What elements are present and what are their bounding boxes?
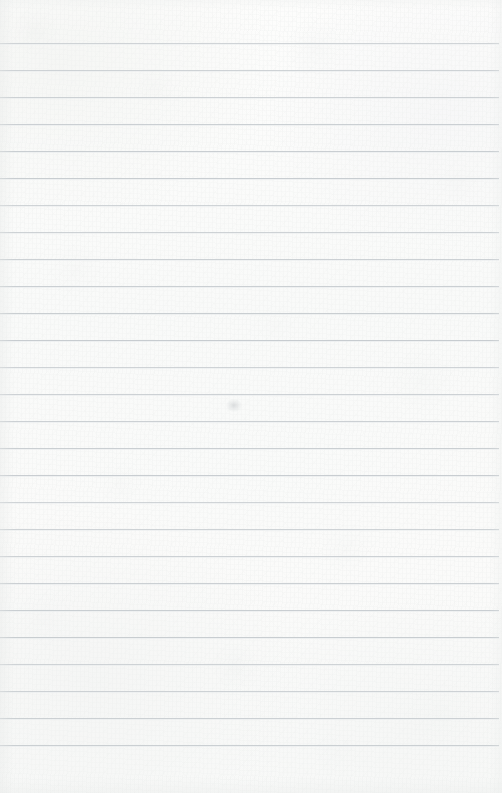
notebook-page — [0, 0, 502, 793]
writing-area[interactable] — [0, 43, 502, 745]
rule-line — [0, 745, 499, 746]
